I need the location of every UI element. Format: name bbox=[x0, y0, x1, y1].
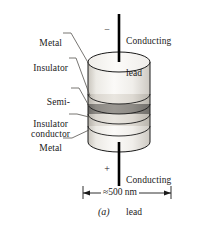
label-conducting-lead-top-line2: lead bbox=[126, 68, 210, 79]
label-conducting-lead-top: Conducting lead bbox=[126, 15, 210, 99]
label-conducting-lead-bottom-line2: lead bbox=[126, 207, 210, 218]
polarity-positive: + bbox=[100, 163, 114, 174]
figure-caption: (a) bbox=[98, 206, 110, 217]
label-conducting-lead-bottom-line1: Conducting bbox=[126, 175, 210, 186]
label-insulator-top-text: Insulator bbox=[33, 63, 68, 73]
figure-mis-device: Metal Insulator Semi- conductor Insulato… bbox=[0, 0, 212, 227]
label-semiconductor-line1: Semi- bbox=[0, 97, 70, 108]
leader-semiconductor bbox=[71, 88, 89, 106]
leader-insulator-top bbox=[69, 58, 90, 96]
dimension-value: ≈500 nm bbox=[101, 187, 139, 197]
label-insulator-bottom-text: Insulator bbox=[33, 119, 68, 129]
leader-insulator-bottom bbox=[69, 114, 89, 117]
label-conducting-lead-top-line1: Conducting bbox=[126, 36, 210, 47]
polarity-negative: − bbox=[100, 24, 114, 35]
band-semiconductor bbox=[88, 104, 150, 114]
label-metal-bottom-text: Metal bbox=[39, 143, 62, 153]
label-metal-top-text: Metal bbox=[39, 38, 62, 48]
label-metal-bottom: Metal bbox=[0, 132, 62, 164]
dimension-arrow-left bbox=[83, 191, 90, 196]
